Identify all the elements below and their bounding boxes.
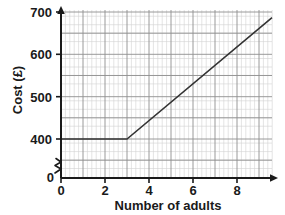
y-tick-label-600: 600 <box>30 47 52 62</box>
x-tick-label-6: 6 <box>189 183 196 198</box>
x-tick-label-8: 8 <box>233 183 240 198</box>
chart-container: 700 600 500 400 0 0 2 4 6 8 Number of ad… <box>0 0 285 215</box>
y-tick-label-500: 500 <box>30 90 52 105</box>
y-origin-label: 0 <box>47 170 54 185</box>
y-axis-title: Cost (£) <box>10 66 25 114</box>
x-axis-title: Number of adults <box>115 198 222 213</box>
x-tick-label-4: 4 <box>145 183 153 198</box>
arrow-right-icon <box>270 174 278 182</box>
x-tick-label-2: 2 <box>101 183 108 198</box>
x-tick-label-0: 0 <box>57 183 64 198</box>
y-tick-label-700: 700 <box>30 5 52 20</box>
line-chart: 700 600 500 400 0 0 2 4 6 8 Number of ad… <box>0 0 285 215</box>
y-tick-label-400: 400 <box>30 132 52 147</box>
